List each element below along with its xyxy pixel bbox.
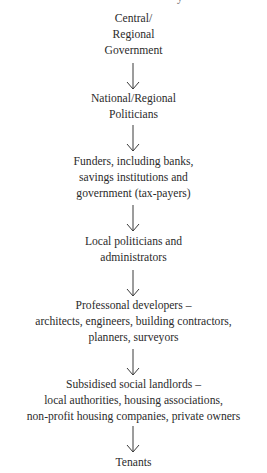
node-line: Regional [0,27,267,43]
node-funders: Funders, including banks, savings instit… [0,154,267,203]
node-line: Government [0,43,267,59]
node-line: government (tax-payers) [0,186,267,202]
node-line: architects, engineers, building contract… [0,314,267,330]
node-line: National/Regional [0,91,267,107]
node-line: savings institutions and [0,170,267,186]
node-line: Subsidised social landlords – [0,377,267,393]
down-arrow-icon [126,205,140,232]
node-central-government: Central/ Regional Government [0,11,267,60]
down-arrow-icon [126,63,140,90]
node-line: Tenants [0,455,267,471]
node-line: local authorities, housing associations, [0,393,267,409]
node-local-politicians: Local politicians and administrators [0,234,267,266]
node-line: administrators [0,250,267,266]
node-line: Professonal developers – [0,298,267,314]
node-professional-developers: Professonal developers – architects, eng… [0,298,267,347]
node-line: Local politicians and [0,234,267,250]
down-arrow-icon [126,125,140,152]
node-line: planners, surveyors [0,330,267,346]
node-line: Politicians [0,107,267,123]
node-line: non-profit housing companies, private ow… [0,409,267,425]
cutoff-text: y [177,0,183,3]
node-social-landlords: Subsidised social landlords – local auth… [0,377,267,426]
down-arrow-icon [126,426,140,453]
node-tenants: Tenants [0,455,267,471]
down-arrow-icon [126,270,140,297]
node-line: Funders, including banks, [0,154,267,170]
node-line: Central/ [0,11,267,27]
node-national-politicians: National/Regional Politicians [0,91,267,123]
down-arrow-icon [126,349,140,376]
